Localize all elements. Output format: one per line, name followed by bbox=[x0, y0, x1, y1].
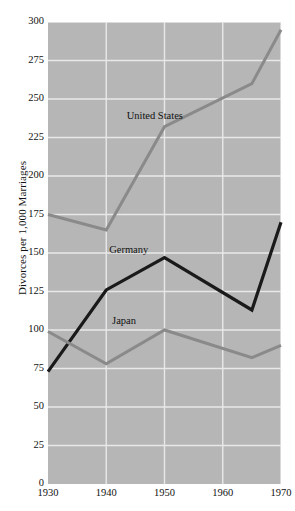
y-tick-label: 100 bbox=[14, 323, 44, 334]
y-tick-label: 300 bbox=[14, 15, 44, 26]
y-tick-label: 150 bbox=[14, 246, 44, 257]
x-tick-label: 1960 bbox=[203, 487, 243, 498]
x-tick-label: 1930 bbox=[28, 487, 68, 498]
series-line bbox=[48, 330, 281, 364]
chart-figure: Divorces per 1,000 Marriages 02550751001… bbox=[0, 0, 295, 511]
y-tick-label: 50 bbox=[14, 400, 44, 411]
x-tick-label: 1940 bbox=[86, 487, 126, 498]
series-line bbox=[48, 30, 281, 230]
plot-area bbox=[48, 22, 281, 484]
y-axis-title: Divorces per 1,000 Marriages bbox=[16, 118, 28, 338]
y-tick-label: 125 bbox=[14, 285, 44, 296]
x-tick-label: 1970 bbox=[261, 487, 295, 498]
y-tick-label: 250 bbox=[14, 92, 44, 103]
y-tick-label: 25 bbox=[14, 439, 44, 450]
y-tick-label: 75 bbox=[14, 362, 44, 373]
series-line bbox=[48, 222, 281, 371]
series-label: Germany bbox=[109, 244, 148, 255]
series-label: United States bbox=[127, 110, 183, 121]
y-tick-label: 275 bbox=[14, 54, 44, 65]
series-label: Japan bbox=[112, 315, 136, 326]
y-tick-label: 175 bbox=[14, 208, 44, 219]
series-lines bbox=[48, 22, 281, 484]
y-tick-label: 225 bbox=[14, 131, 44, 142]
x-tick-label: 1950 bbox=[145, 487, 185, 498]
y-tick-label: 200 bbox=[14, 169, 44, 180]
